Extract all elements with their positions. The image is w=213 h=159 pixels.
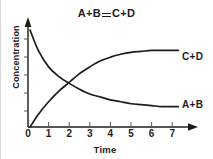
x-tick-label-6: 6 <box>144 128 160 139</box>
curve-label-a-plus-b: A+B <box>182 99 203 110</box>
x-tick-label-1: 1 <box>41 128 57 139</box>
concentration-vs-time-figure: A+BC+D <box>0 0 213 159</box>
x-tick-label-2: 2 <box>61 128 77 139</box>
x-tick-label-3: 3 <box>82 128 98 139</box>
x-axis-arrowhead-icon <box>188 123 198 131</box>
x-tick-label-4: 4 <box>102 128 118 139</box>
y-axis-arrowhead-icon <box>25 17 32 27</box>
x-tick-label-7: 7 <box>164 128 180 139</box>
curve-label-c-plus-d: C+D <box>182 51 203 62</box>
curve-c-plus-d <box>30 50 178 127</box>
x-tick-label-5: 5 <box>123 128 139 139</box>
x-axis-title: Time <box>78 144 132 155</box>
x-tick-label-0: 0 <box>20 128 36 139</box>
y-axis-title: Concentration <box>11 17 21 97</box>
curve-a-plus-b <box>30 30 178 107</box>
x-axis-ticks <box>28 122 172 127</box>
